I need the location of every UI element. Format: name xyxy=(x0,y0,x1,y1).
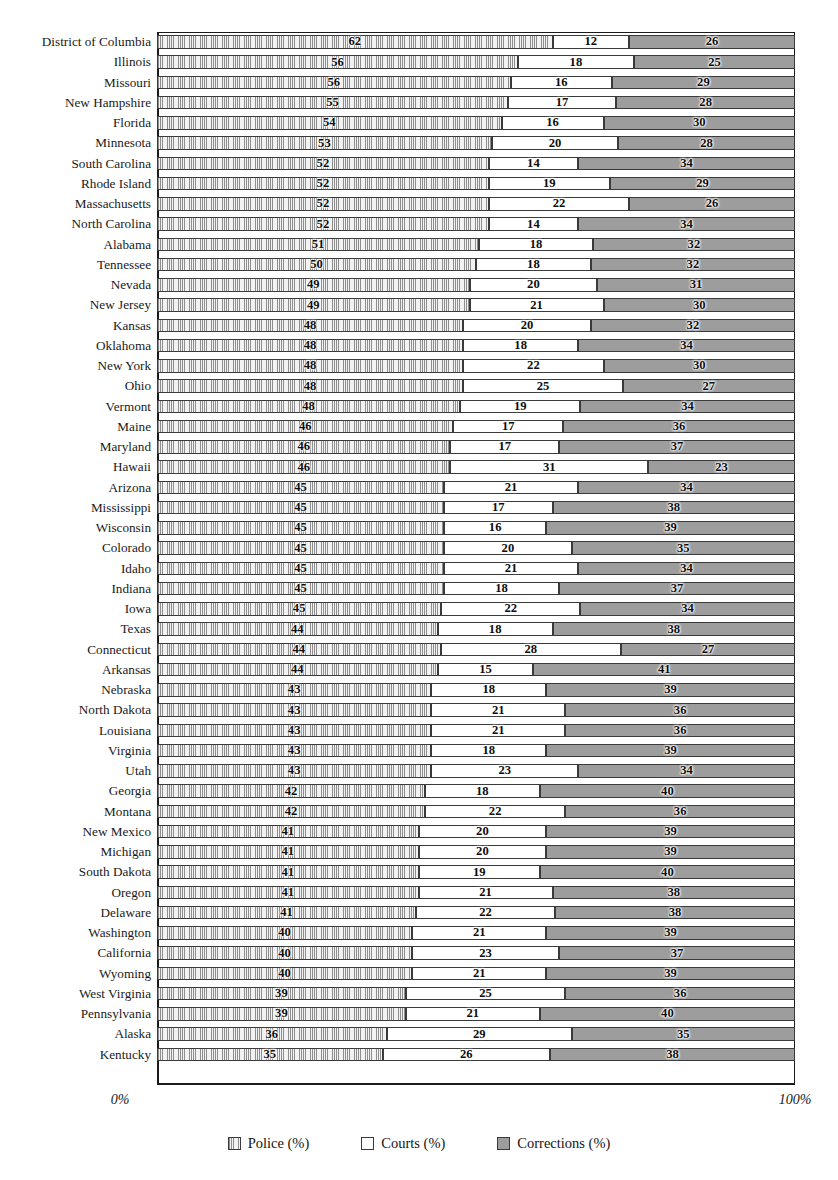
police-segment: 35 xyxy=(157,1048,383,1062)
chart-row: Arkansas441541 xyxy=(157,660,795,680)
corrections-segment: 37 xyxy=(559,440,795,454)
segment-value-label: 16 xyxy=(489,521,502,534)
segment-value-label: 20 xyxy=(549,137,562,150)
courts-segment: 12 xyxy=(553,35,630,49)
chart-row: District of Columbia621226 xyxy=(157,32,795,52)
corrections-segment: 29 xyxy=(610,177,795,191)
row-label: Pennsylvania xyxy=(81,1004,151,1024)
chart-row: Iowa452234 xyxy=(157,599,795,619)
segment-value-label: 43 xyxy=(288,764,301,777)
segment-value-label: 49 xyxy=(307,278,320,291)
corrections-segment: 38 xyxy=(553,622,795,636)
segment-value-label: 32 xyxy=(687,319,700,332)
row-label: Minnesota xyxy=(95,133,151,153)
police-segment: 52 xyxy=(157,217,489,231)
segment-value-label: 43 xyxy=(288,704,301,717)
chart-row: Virginia431839 xyxy=(157,741,795,761)
police-segment: 39 xyxy=(157,1007,406,1021)
police-segment: 56 xyxy=(157,76,511,90)
segment-value-label: 18 xyxy=(476,785,489,798)
segment-value-label: 18 xyxy=(482,744,495,757)
police-segment: 48 xyxy=(157,400,460,414)
segment-value-label: 36 xyxy=(674,805,687,818)
chart-row: Delaware412238 xyxy=(157,903,795,923)
corrections-segment: 29 xyxy=(612,76,795,90)
police-segment: 45 xyxy=(157,562,444,576)
segment-value-label: 14 xyxy=(527,157,540,170)
corrections-segment: 40 xyxy=(540,865,795,879)
segment-value-label: 21 xyxy=(473,926,486,939)
courts-segment: 21 xyxy=(412,926,546,940)
corrections-segment: 40 xyxy=(540,784,795,798)
chart-row: Louisiana432136 xyxy=(157,721,795,741)
chart-rows: District of Columbia621226Illinois561825… xyxy=(157,32,795,1085)
row-label: Louisiana xyxy=(99,721,151,741)
x-axis-tick-right: 100% xyxy=(755,1092,835,1108)
stacked-bar: 482230 xyxy=(157,359,795,373)
row-label: Alaska xyxy=(114,1024,151,1044)
stacked-bar: 431839 xyxy=(157,683,795,697)
segment-value-label: 26 xyxy=(706,197,719,210)
segment-value-label: 50 xyxy=(310,258,323,271)
courts-segment: 22 xyxy=(463,359,603,373)
courts-segment: 15 xyxy=(438,663,534,677)
stacked-bar: 412238 xyxy=(157,906,795,920)
chart-row: Idaho452134 xyxy=(157,559,795,579)
segment-value-label: 18 xyxy=(514,339,527,352)
segment-value-label: 22 xyxy=(479,906,492,919)
segment-value-label: 34 xyxy=(680,339,693,352)
segment-value-label: 30 xyxy=(693,299,706,312)
corrections-segment: 27 xyxy=(621,643,795,657)
corrections-segment: 39 xyxy=(546,845,795,859)
courts-segment: 18 xyxy=(444,582,559,596)
corrections-swatch-icon xyxy=(497,1137,510,1150)
chart-legend: Police (%)Courts (%)Corrections (%) xyxy=(0,1135,838,1152)
segment-value-label: 21 xyxy=(479,886,492,899)
chart-row: Michigan412039 xyxy=(157,842,795,862)
police-segment: 48 xyxy=(157,379,463,393)
courts-segment: 21 xyxy=(431,724,565,738)
courts-segment: 17 xyxy=(450,440,558,454)
segment-value-label: 39 xyxy=(664,744,677,757)
courts-segment: 26 xyxy=(383,1048,551,1062)
segment-value-label: 37 xyxy=(671,582,684,595)
row-label: Texas xyxy=(120,619,151,639)
police-segment: 53 xyxy=(157,136,492,150)
stacked-bar: 482032 xyxy=(157,319,795,333)
corrections-segment: 30 xyxy=(604,298,795,312)
courts-segment: 18 xyxy=(425,784,540,798)
segment-value-label: 38 xyxy=(666,1048,679,1061)
segment-value-label: 23 xyxy=(498,764,511,777)
stacked-bar: 432136 xyxy=(157,724,795,738)
row-label: Kansas xyxy=(113,316,151,336)
chart-row: South Dakota411940 xyxy=(157,862,795,882)
courts-segment: 31 xyxy=(450,460,648,474)
row-label: North Dakota xyxy=(79,700,151,720)
chart-row: New Jersey492130 xyxy=(157,295,795,315)
police-segment: 45 xyxy=(157,541,444,555)
police-segment: 45 xyxy=(157,481,444,495)
row-label: Florida xyxy=(113,113,151,133)
chart-row: Georgia421840 xyxy=(157,781,795,801)
stacked-bar: 392536 xyxy=(157,987,795,1001)
legend-label: Courts (%) xyxy=(381,1135,445,1152)
legend-item: Corrections (%) xyxy=(497,1135,610,1152)
row-label: Wyoming xyxy=(99,964,151,984)
chart-row: Massachusetts522226 xyxy=(157,194,795,214)
corrections-segment: 36 xyxy=(565,703,795,717)
chart-row: Tennessee501832 xyxy=(157,255,795,275)
segment-value-label: 43 xyxy=(288,744,301,757)
row-label: Vermont xyxy=(106,397,151,417)
corrections-segment: 31 xyxy=(597,278,795,292)
segment-value-label: 43 xyxy=(288,724,301,737)
courts-segment: 22 xyxy=(441,602,580,616)
segment-value-label: 22 xyxy=(553,197,566,210)
segment-value-label: 41 xyxy=(281,845,294,858)
stacked-bar: 442827 xyxy=(157,643,795,657)
segment-value-label: 48 xyxy=(304,319,317,332)
stacked-bar: 412138 xyxy=(157,886,795,900)
stacked-bar: 432136 xyxy=(157,703,795,717)
stacked-bar: 451738 xyxy=(157,501,795,515)
stacked-bar: 411940 xyxy=(157,865,795,879)
courts-segment: 16 xyxy=(511,76,612,90)
